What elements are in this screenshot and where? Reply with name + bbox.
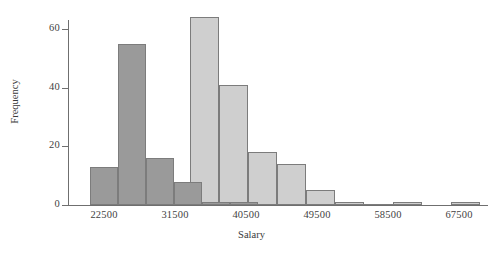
x-tick-label: 40500 [232, 209, 259, 220]
histogram-bar [451, 202, 480, 205]
y-tick-label: 60 [26, 23, 60, 34]
x-axis-line [68, 205, 488, 206]
y-tick-label-wrap: 60 [22, 23, 60, 34]
x-axis-title: Salary [0, 229, 503, 240]
y-axis-title: Frequency [9, 62, 20, 142]
y-tick-label: 40 [26, 82, 60, 93]
y-tick-label: 20 [26, 140, 60, 151]
histogram-bar [364, 204, 393, 206]
histogram-bar [335, 202, 364, 205]
histogram-bar [277, 164, 306, 205]
y-tick-label-wrap: 20 [22, 140, 60, 151]
histogram-bar [146, 158, 174, 205]
y-tick-label-wrap: 0 [22, 199, 60, 210]
histogram-bar [248, 152, 277, 205]
x-tick-label: 67500 [445, 209, 472, 220]
x-tick-label: 49500 [303, 209, 330, 220]
x-tick-label: 22500 [90, 209, 117, 220]
histogram-bar [230, 202, 258, 205]
histogram-bar [90, 167, 118, 205]
y-tick-mark [62, 205, 69, 206]
histogram-bar [118, 44, 146, 205]
x-tick-label: 58500 [374, 209, 401, 220]
y-tick-label: 0 [26, 199, 60, 210]
histogram-chart: 0204060 225003150040500495005850067500 F… [0, 0, 503, 258]
x-tick-label: 31500 [161, 209, 188, 220]
plot-area [68, 18, 488, 205]
histogram-bar [190, 17, 219, 205]
histogram-bar [202, 202, 230, 205]
y-tick-label-wrap: 40 [22, 82, 60, 93]
histogram-bar [219, 85, 248, 205]
histogram-bar [393, 202, 422, 205]
histogram-bar [174, 182, 202, 205]
histogram-bar [306, 190, 335, 205]
